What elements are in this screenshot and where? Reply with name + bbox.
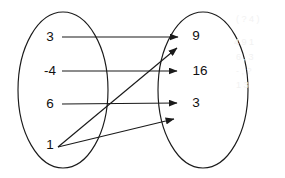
range-element-3: 3 <box>192 95 200 110</box>
domain-element-1: 1 <box>46 137 54 152</box>
domain-ellipse <box>18 12 108 168</box>
ghost-mark-3: 6 , 3 <box>236 52 254 62</box>
ghost-mark-1: ( ? 4 ) <box>236 14 260 24</box>
range-ellipse <box>158 12 248 168</box>
ghost-mark-4: - , ? <box>236 66 252 76</box>
domain-element-neg4: -4 <box>44 63 56 78</box>
domain-element-6: 6 <box>46 96 54 111</box>
ghost-mark-5: 1 3 <box>236 80 249 90</box>
mapping-diagram-svg: 3 -4 6 1 9 16 3 ( ? 4 ) 4 9 1 6 , 3 - , … <box>0 0 285 178</box>
range-element-16: 16 <box>192 63 207 78</box>
arrow-6-to-3 <box>62 103 177 104</box>
ghost-mark-2: 4 9 1 <box>234 37 254 47</box>
range-element-9: 9 <box>192 28 200 43</box>
domain-element-3: 3 <box>46 29 54 44</box>
mapping-diagram-canvas: 3 -4 6 1 9 16 3 ( ? 4 ) 4 9 1 6 , 3 - , … <box>0 0 285 178</box>
